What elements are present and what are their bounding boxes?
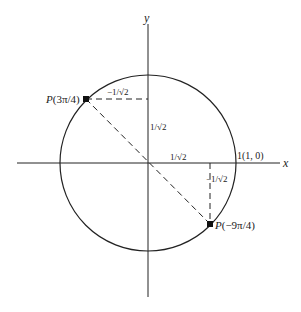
- point-neg9pi-4-label: P(−9π/4): [214, 219, 255, 232]
- point-3pi-4-marker: [83, 96, 89, 102]
- right-vertical-label: −1/√2: [206, 174, 228, 184]
- point-neg9pi-4-marker: [207, 221, 213, 227]
- unit-circle-diagram: x y P(3π/4) P(−9π/4) −1/√2 1/√2 1/√2 −1/…: [0, 0, 301, 312]
- bottom-horizontal-label: 1/√2: [170, 152, 186, 162]
- y-axis-label: y: [143, 11, 150, 25]
- x-axis-label: x: [282, 156, 289, 170]
- left-vertical-label: 1/√2: [150, 122, 166, 132]
- top-horizontal-label: −1/√2: [107, 87, 129, 97]
- x-intercept-label: 1(1, 0): [237, 150, 264, 162]
- point-3pi-4-label: P(3π/4): [45, 93, 80, 106]
